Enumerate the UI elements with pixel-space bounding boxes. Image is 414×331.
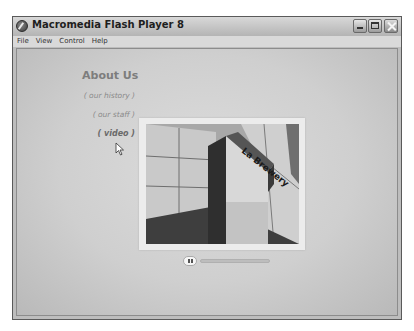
maximize-button[interactable]: [368, 19, 382, 33]
menu-file[interactable]: File: [17, 36, 29, 47]
close-button[interactable]: [384, 19, 398, 33]
flash-player-window: Macromedia Flash Player 8 File View Cont…: [12, 16, 402, 320]
video-progress-bar[interactable]: [200, 259, 270, 263]
menu-control[interactable]: Control: [59, 36, 84, 47]
mouse-pointer-icon: [115, 142, 125, 156]
menu-help[interactable]: Help: [92, 36, 108, 47]
minimize-button[interactable]: [353, 19, 367, 33]
flash-player-icon: [16, 20, 28, 32]
window-title: Macromedia Flash Player 8: [32, 19, 184, 30]
nav-our-history[interactable]: ( our history ): [84, 91, 135, 100]
building-photo: La Brewery: [146, 124, 299, 244]
nav-video[interactable]: ( video ): [98, 129, 136, 138]
page-title: About Us: [82, 69, 138, 82]
menu-view[interactable]: View: [36, 36, 53, 47]
video-display[interactable]: La Brewery: [146, 124, 299, 244]
video-frame: La Brewery: [139, 118, 305, 250]
menu-bar: File View Control Help: [13, 36, 401, 47]
nav-our-staff[interactable]: ( our staff ): [93, 110, 135, 119]
video-controls: [183, 256, 271, 266]
pause-button[interactable]: [183, 256, 197, 266]
flash-stage: About Us ( our history ) ( our staff ) (…: [16, 48, 398, 316]
title-bar[interactable]: Macromedia Flash Player 8: [13, 17, 401, 37]
